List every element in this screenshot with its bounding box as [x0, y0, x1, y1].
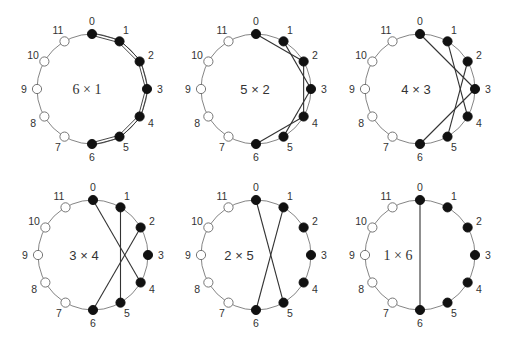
- panel-label: 5 × 2: [240, 82, 269, 97]
- node-label: 7: [219, 141, 225, 153]
- filled-node-0: [251, 195, 260, 204]
- node-label: 3: [485, 83, 491, 95]
- node-label: 3: [321, 249, 327, 261]
- figure-stage: 012345678910116 × 1012345678910115 × 201…: [0, 0, 506, 341]
- node-label: 10: [27, 49, 39, 61]
- node-label: 7: [383, 307, 389, 319]
- filled-node-1: [443, 37, 452, 46]
- node-label: 4: [476, 283, 482, 295]
- node-label: 6: [253, 151, 259, 163]
- panel-1x6: 012345678910111 × 6: [349, 181, 491, 329]
- node-label: 7: [219, 307, 225, 319]
- node-label: 6: [417, 151, 423, 163]
- open-node-9: [32, 84, 41, 93]
- panel-4x3: 012345678910114 × 3: [349, 15, 491, 163]
- open-node-7: [224, 132, 233, 141]
- node-label: 11: [217, 24, 228, 36]
- panel-5x2: 012345678910115 × 2: [185, 15, 327, 163]
- filled-node-2: [463, 57, 472, 66]
- node-label: 2: [476, 49, 482, 61]
- panel-6x1: 012345678910116 × 1: [21, 15, 163, 163]
- filled-node-5: [279, 298, 288, 307]
- node-label: 6: [417, 317, 423, 329]
- open-node-10: [41, 223, 50, 232]
- filled-node-1: [115, 37, 124, 46]
- filled-node-3: [470, 84, 479, 93]
- open-node-9: [360, 250, 369, 259]
- node-label: 2: [312, 215, 318, 227]
- open-node-8: [204, 112, 213, 121]
- open-node-9: [196, 84, 205, 93]
- node-label: 11: [53, 24, 64, 36]
- open-node-11: [60, 37, 69, 46]
- open-node-8: [368, 112, 377, 121]
- filled-node-1: [443, 203, 452, 212]
- node-label: 4: [312, 283, 318, 295]
- filled-node-6: [415, 305, 424, 314]
- node-label: 1: [451, 24, 457, 36]
- open-node-11: [388, 37, 397, 46]
- edge-0-5: [256, 200, 284, 303]
- node-label: 7: [55, 141, 61, 153]
- filled-node-2: [135, 57, 144, 66]
- node-label: 1: [287, 24, 293, 36]
- open-node-9: [33, 250, 42, 259]
- node-label: 5: [451, 141, 457, 153]
- filled-node-4: [463, 278, 472, 287]
- open-node-10: [204, 223, 213, 232]
- filled-node-3: [143, 250, 152, 259]
- edge-2-6: [93, 228, 141, 311]
- node-label: 2: [476, 215, 482, 227]
- filled-node-2: [299, 223, 308, 232]
- open-node-7: [224, 298, 233, 307]
- filled-node-3: [306, 250, 315, 259]
- ring: [201, 200, 311, 310]
- node-label: 3: [485, 249, 491, 261]
- node-label: 1: [287, 190, 293, 202]
- node-label: 5: [124, 307, 130, 319]
- chord-diagram-grid: 012345678910116 × 1012345678910115 × 201…: [0, 0, 506, 341]
- open-node-8: [40, 112, 49, 121]
- filled-node-6: [251, 139, 260, 148]
- filled-node-6: [415, 139, 424, 148]
- filled-node-0: [251, 29, 260, 38]
- filled-node-3: [306, 84, 315, 93]
- panel-label: 4 × 3: [401, 82, 430, 97]
- open-node-8: [204, 278, 213, 287]
- filled-node-4: [463, 112, 472, 121]
- filled-node-2: [299, 57, 308, 66]
- node-label: 5: [123, 141, 129, 153]
- node-label: 1: [451, 190, 457, 202]
- node-label: 0: [417, 181, 423, 193]
- node-label: 5: [287, 141, 293, 153]
- node-label: 9: [185, 249, 191, 261]
- node-label: 9: [185, 83, 191, 95]
- filled-node-1: [279, 37, 288, 46]
- node-label: 5: [451, 307, 457, 319]
- edge-0-4: [93, 200, 141, 283]
- node-label: 10: [355, 215, 367, 227]
- panel-2x5: 012345678910112 × 5: [185, 181, 327, 329]
- node-label: 4: [476, 117, 482, 129]
- node-label: 6: [253, 317, 259, 329]
- node-label: 4: [148, 117, 154, 129]
- node-label: 8: [194, 117, 200, 129]
- panel-label: 6 × 1: [73, 82, 102, 97]
- open-node-9: [360, 84, 369, 93]
- filled-node-6: [251, 305, 260, 314]
- open-node-7: [60, 132, 69, 141]
- filled-node-4: [299, 112, 308, 121]
- node-label: 0: [89, 15, 95, 27]
- node-label: 2: [148, 49, 154, 61]
- node-label: 9: [22, 249, 28, 261]
- open-node-9: [196, 250, 205, 259]
- node-label: 10: [28, 215, 40, 227]
- node-label: 9: [349, 83, 355, 95]
- node-label: 7: [56, 307, 62, 319]
- node-label: 5: [287, 307, 293, 319]
- filled-node-6: [88, 305, 97, 314]
- filled-node-1: [116, 203, 125, 212]
- open-node-8: [41, 278, 50, 287]
- open-node-7: [388, 298, 397, 307]
- node-label: 2: [149, 215, 155, 227]
